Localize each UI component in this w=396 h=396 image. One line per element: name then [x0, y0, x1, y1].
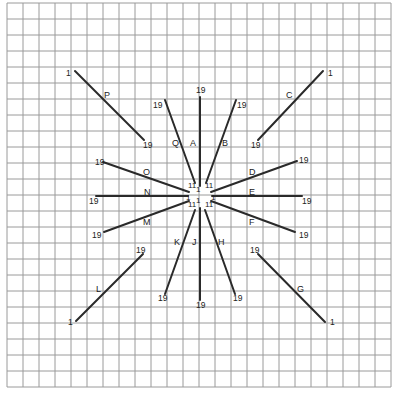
stitch-number-label: 19	[136, 245, 146, 255]
stitch-number-label: 1	[66, 68, 71, 78]
stitch-number-label: 19	[89, 196, 99, 206]
line-letter-label: A	[190, 138, 196, 148]
stitch-number-label: 19	[302, 196, 312, 206]
line-letter-label: C	[286, 90, 293, 100]
line-letter-label: D	[249, 167, 256, 177]
stitch-number-label: 19	[251, 140, 261, 150]
line-letter-label: M	[143, 217, 151, 227]
line-letter-label: K	[174, 237, 180, 247]
stitch-number-label: 11	[205, 200, 214, 209]
line-letter-label: O	[143, 167, 150, 177]
stitch-number-label: 11	[205, 181, 214, 190]
line-letter-label: E	[249, 187, 255, 197]
stitch-number-label: 19	[92, 230, 102, 240]
stitch-number-label: 19	[153, 100, 163, 110]
stitch-number-label: 19	[237, 100, 247, 110]
line-letter-label: B	[222, 138, 228, 148]
stitch-diagram: 1P1919Q19A19BC11919OD19N19E19M19F191919K…	[0, 0, 396, 396]
line-letter-label: G	[297, 284, 304, 294]
line-letter-label: L	[96, 284, 101, 294]
stitch-number-label: 19	[250, 245, 260, 255]
stitch-number-label: 19	[196, 85, 206, 95]
line-letter-label: F	[249, 217, 255, 227]
stitch-number-label: 19	[143, 140, 153, 150]
stitch-number-label: 1	[328, 68, 333, 78]
stitch-number-label: 19	[158, 293, 168, 303]
stitch-number-label: 1	[196, 196, 201, 205]
line-letter-label: P	[104, 90, 110, 100]
line-letter-label: Q	[172, 138, 179, 148]
stitch-number-label: 1	[196, 185, 201, 194]
stitch-number-label: 19	[95, 157, 105, 167]
stitch-number-label: 19	[233, 293, 243, 303]
line-letter-label: H	[218, 237, 225, 247]
stitch-number-label: 1	[68, 317, 73, 327]
line-letter-label: J	[192, 237, 197, 247]
stitch-number-label: 1	[330, 317, 335, 327]
stitch-number-label: 19	[196, 300, 206, 310]
stitch-number-label: 19	[299, 155, 309, 165]
stitch-number-label: 19	[299, 230, 309, 240]
line-letter-label: N	[144, 187, 151, 197]
